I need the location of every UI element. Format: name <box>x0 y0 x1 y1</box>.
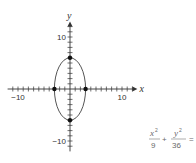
intercept-point <box>83 87 87 91</box>
intercept-point <box>68 118 72 122</box>
equation-operator: + <box>162 135 167 144</box>
ellipse-plot: x y −101010−10 x 2 9 + y 2 36 = <box>0 0 196 163</box>
x-axis-label: x <box>138 83 144 94</box>
x-tick-label: 10 <box>118 93 127 102</box>
y-tick-label: −10 <box>52 137 66 146</box>
y-tick-label: 10 <box>57 33 66 42</box>
equation-term1-numerator: x <box>149 128 154 138</box>
equation-term2-denominator: 36 <box>172 141 181 150</box>
y-axis-arrow <box>68 22 73 27</box>
equation-equals: = <box>189 135 194 144</box>
y-axis-label: y <box>66 10 72 21</box>
intercept-point <box>52 87 56 91</box>
equation-term2-exponent: 2 <box>179 127 182 133</box>
x-tick-label: −10 <box>11 93 25 102</box>
intercept-point <box>68 56 72 60</box>
equation-term1-exponent: 2 <box>155 127 158 133</box>
equation: x 2 9 + y 2 36 = <box>149 127 194 150</box>
tick-marks <box>13 27 133 147</box>
equation-term2-numerator: y <box>173 128 178 138</box>
x-axis-arrow <box>132 87 137 92</box>
equation-term1-denominator: 9 <box>151 141 156 150</box>
